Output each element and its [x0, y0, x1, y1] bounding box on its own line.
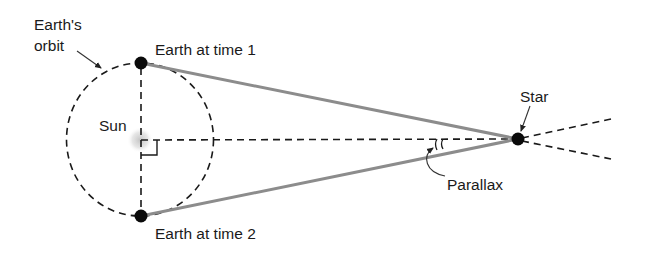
- sun-icon: [127, 127, 153, 153]
- extension-lower: [522, 141, 611, 159]
- earth-time1-label: Earth at time 1: [155, 41, 256, 58]
- extension-upper: [522, 119, 611, 138]
- sun-star-line: [141, 139, 512, 140]
- star-pointer-arrow: [521, 106, 530, 131]
- orbit-pointer-arrow: [77, 51, 101, 68]
- parallax-diagram: Earth's orbit Earth at time 1 Sun Earth …: [0, 0, 651, 261]
- parallax-angle-arc-2: [442, 139, 444, 149]
- earth-time1-dot: [135, 57, 148, 70]
- orbit-label-line2: orbit: [34, 37, 65, 54]
- star-dot: [512, 133, 525, 146]
- parallax-angle-arc-1: [436, 139, 438, 150]
- parallax-pointer-arrow: [427, 148, 445, 176]
- earth-time2-dot: [135, 210, 148, 223]
- sun-label: Sun: [99, 117, 127, 134]
- sightline-time1: [141, 63, 518, 139]
- orbit-label-line1: Earth's: [34, 16, 82, 33]
- parallax-label: Parallax: [447, 176, 503, 193]
- star-label: Star: [520, 88, 548, 105]
- earth-time2-label: Earth at time 2: [155, 225, 256, 242]
